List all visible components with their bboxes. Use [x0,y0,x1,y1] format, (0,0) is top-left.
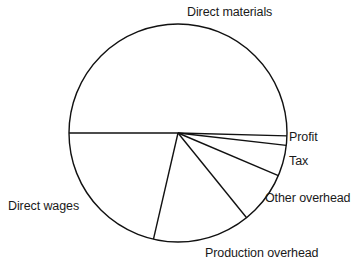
pie-label-other-overhead: Other overhead [265,191,350,205]
pie-label-profit: Profit [289,130,318,144]
pie-label-direct-materials: Direct materials [187,5,272,19]
pie-chart-figure: Direct materials Profit Tax Other overhe… [0,0,362,269]
pie-label-tax: Tax [289,154,308,168]
pie-label-production-overhead: Production overhead [205,246,318,260]
pie-label-direct-wages: Direct wages [8,199,79,213]
